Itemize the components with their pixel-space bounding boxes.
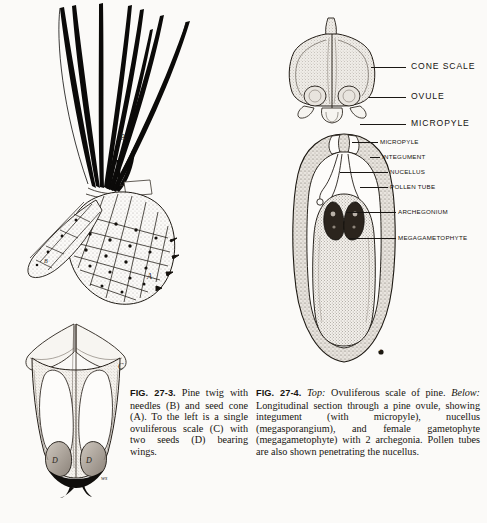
key-letter-b-lower: B (44, 258, 48, 264)
leader-micropyle (352, 142, 378, 143)
caption-lead-below: Below: (451, 387, 480, 398)
key-letter-c: C (118, 362, 123, 371)
leader-cone-scale (371, 67, 406, 68)
key-letter-d-right: D (86, 456, 92, 465)
caption-body-27-4-part2: Longitudinal section through a pine ovul… (256, 400, 480, 457)
label-micropyle-top: MICROPYLE (411, 118, 470, 128)
key-letter-a: A (147, 272, 152, 281)
label-cone-scale: CONE SCALE (411, 61, 475, 71)
leader-integument (370, 157, 380, 158)
textbook-figure-page: B A B (0, 0, 487, 523)
key-letter-b: B (120, 133, 125, 142)
pine-needles (60, 3, 190, 192)
leader-micropyle-top (360, 124, 406, 125)
micropyle-lobes (298, 106, 366, 123)
leader-ovule (369, 97, 406, 98)
caption-fig-number-27-4: FIG. 27-4. (256, 388, 301, 398)
caption-fig-27-4: FIG. 27-4. Top: Ovuliferous scale of pin… (256, 387, 480, 458)
ovuliferous-scale-illustration: C D D ws (18, 318, 138, 498)
leader-pollen-tube (360, 187, 388, 188)
ovule-longitudinal-section-drawing (288, 130, 400, 370)
micropyle-canal-right (348, 135, 359, 154)
label-megagametophyte: MEGAGAMETOPHYTE (398, 234, 467, 241)
key-letter-ws: ws (101, 475, 107, 481)
micropyle-canal-left (329, 135, 340, 154)
label-integument: INTEGUMENT (382, 153, 425, 160)
caption-lead-top: Top: (307, 387, 325, 398)
caption-fig-number-27-3: FIG. 27-3. (130, 388, 176, 398)
megagametophyte (313, 194, 376, 346)
key-letter-d-left: D (52, 456, 58, 465)
leader-megagametophyte (348, 238, 396, 239)
label-pollen-tube: POLLEN TUBE (390, 183, 435, 190)
caption-body-27-4-part1: Ovuliferous scale of pine. (325, 387, 451, 398)
scale-stalk (326, 18, 337, 36)
cone-scale-drawing (278, 16, 388, 128)
ovuliferous-scale-drawing (18, 318, 138, 498)
cone-scale-illustration (278, 16, 388, 128)
ovule-section-illustration: G (288, 130, 400, 370)
leader-archegonium (346, 212, 396, 213)
label-ovule: OVULE (411, 91, 445, 101)
caption-fig-27-3: FIG. 27-3. Pine twig with needles (B) an… (130, 387, 248, 458)
label-nucellus: NUCELLUS (390, 168, 425, 175)
pine-twig-drawing (0, 0, 200, 330)
label-archegonium: ARCHEGONIUM (398, 208, 448, 215)
leader-nucellus (340, 172, 388, 173)
key-letter-g: G (376, 346, 380, 352)
label-micropyle: MICROPYLE (380, 138, 419, 145)
figure-27-3-illustration: B A B (0, 0, 200, 330)
